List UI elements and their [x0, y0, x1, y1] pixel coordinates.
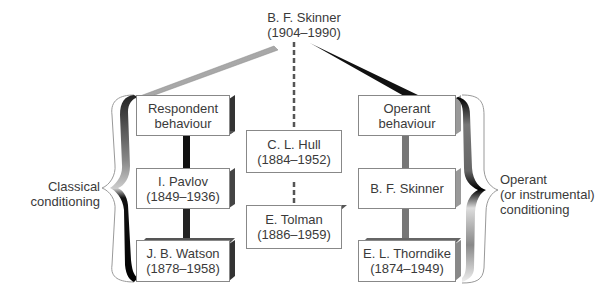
brace-label-line: Operant — [500, 172, 608, 187]
node-name: I. Pavlov — [158, 174, 208, 189]
classical-conditioning-label: Classical conditioning — [20, 179, 100, 209]
node-label: Respondent — [148, 101, 218, 116]
brace-label-line: (or instrumental) — [500, 187, 608, 202]
node-name: C. L. Hull — [267, 137, 320, 152]
node-respondent-behaviour: Respondent behaviour — [136, 95, 230, 136]
node-years: (1886–1959) — [257, 227, 331, 242]
node-skinner: B. F. Skinner — [358, 168, 456, 209]
node-years: (1874–1949) — [370, 261, 444, 276]
brace-label-line: conditioning — [500, 202, 608, 217]
node-name: J. B. Watson — [146, 246, 219, 261]
node-label: behaviour — [378, 116, 435, 131]
left-diagonal-connector — [140, 46, 278, 96]
right-diagonal-connector — [310, 43, 420, 96]
node-pavlov: I. Pavlov (1849–1936) — [136, 168, 230, 209]
node-years: (1884–1952) — [257, 152, 331, 167]
node-name: E. L. Thorndike — [363, 246, 451, 261]
root-name: B. F. Skinner — [248, 10, 360, 25]
brace-label-line: Classical — [20, 179, 100, 194]
node-years: (1849–1936) — [146, 189, 220, 204]
node-label: behaviour — [154, 116, 211, 131]
root-years: (1904–1990) — [248, 25, 360, 40]
brace-label-line: conditioning — [20, 194, 100, 209]
node-name: E. Tolman — [265, 212, 323, 227]
left-brace-fill — [110, 95, 138, 282]
node-name: B. F. Skinner — [370, 181, 444, 196]
node-years: (1878–1958) — [146, 261, 220, 276]
node-hull: C. L. Hull (1884–1952) — [246, 130, 342, 173]
node-operant-behaviour: Operant behaviour — [358, 95, 456, 136]
node-watson: J. B. Watson (1878–1958) — [136, 240, 230, 282]
node-label: Operant — [384, 101, 431, 116]
node-tolman: E. Tolman (1886–1959) — [246, 205, 342, 249]
operant-conditioning-label: Operant (or instrumental) conditioning — [500, 172, 608, 217]
root-node-skinner: B. F. Skinner (1904–1990) — [248, 10, 360, 40]
node-thorndike: E. L. Thorndike (1874–1949) — [358, 240, 456, 282]
